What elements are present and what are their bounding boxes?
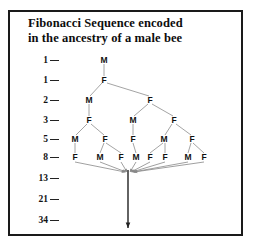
fibonacci-number-label: 1 [22,55,48,65]
fibonacci-number-label: 3 [22,115,48,125]
node-female-bee: F [145,152,155,162]
node-female-bee: F [145,95,155,105]
node-female-bee: F [187,134,197,144]
node-male-bee: M [95,152,105,162]
node-female-bee: F [70,152,80,162]
fibonacci-number-label: 13 [22,173,48,183]
fibonacci-number-label: 1 [22,75,48,85]
node-male-bee: M [131,152,141,162]
node-male-bee: M [159,134,169,144]
fibonacci-tick-dash [50,220,59,221]
node-female-bee: F [84,115,94,125]
fibonacci-tick-dash [50,80,59,81]
fibonacci-tick-dash [50,178,59,179]
figure-title: Fibonacci Sequence encoded in the ancest… [28,16,228,46]
node-female-bee: F [100,134,110,144]
fibonacci-tick-dash [50,199,59,200]
fibonacci-tick-dash [50,60,59,61]
node-male-bee: M [99,55,109,65]
node-female-bee: F [116,152,126,162]
node-male-bee: M [70,134,80,144]
node-female-bee: F [160,152,170,162]
fibonacci-number-label: 21 [22,194,48,204]
node-male-bee: M [128,115,138,125]
fibonacci-tick-dash [50,139,59,140]
node-male-bee: M [84,95,94,105]
node-female-bee: F [169,115,179,125]
node-male-bee: M [183,152,193,162]
node-female-bee: F [128,134,138,144]
fibonacci-number-label: 5 [22,134,48,144]
fibonacci-tick-dash [50,157,59,158]
fibonacci-tick-dash [50,100,59,101]
figure-canvas: Fibonacci Sequence encoded in the ancest… [0,0,255,247]
node-female-bee: F [99,75,109,85]
fibonacci-number-label: 8 [22,152,48,162]
node-female-bee: F [199,152,209,162]
figure-title-line-2: in the ancestry of a male bee [28,31,228,46]
figure-title-line-1: Fibonacci Sequence encoded [28,16,228,31]
fibonacci-number-label: 34 [22,215,48,225]
fibonacci-number-label: 2 [22,95,48,105]
fibonacci-tick-dash [50,120,59,121]
